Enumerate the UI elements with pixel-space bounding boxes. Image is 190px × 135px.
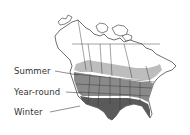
arctic-island <box>96 23 108 33</box>
range-map: Summer Year-round Winter <box>0 0 190 135</box>
legend-summer-label: Summer <box>14 66 51 76</box>
legend-winter-label: Winter <box>14 107 43 117</box>
legend-year-round-label: Year-round <box>14 87 60 97</box>
winter-leader-line <box>50 106 80 112</box>
